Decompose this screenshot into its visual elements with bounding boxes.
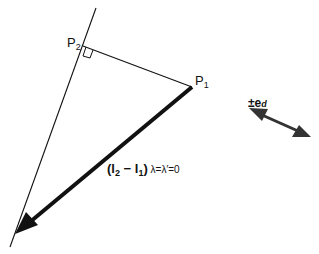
point-p1-label: P1 bbox=[195, 73, 209, 90]
vector-label: (l2 − l1) λ=λ′=0 bbox=[107, 161, 180, 178]
point-p2-label: P2 bbox=[67, 35, 81, 52]
direction-label-prefix: ±e bbox=[248, 96, 261, 110]
vector-label-open: (l bbox=[107, 161, 115, 176]
perpendicular-line bbox=[83, 46, 192, 87]
vector-label-condition: λ=λ′=0 bbox=[148, 164, 180, 175]
diagram-canvas bbox=[0, 0, 319, 254]
vector-arrow-shaft bbox=[30, 87, 192, 222]
p2-letter: P bbox=[67, 35, 76, 50]
p1-letter: P bbox=[195, 73, 204, 88]
double-arrow-shaft bbox=[262, 115, 298, 131]
p2-subscript: 2 bbox=[76, 42, 81, 52]
direction-label-subscript: d bbox=[261, 99, 267, 109]
reference-line bbox=[10, 8, 96, 247]
vector-label-minus: − l bbox=[120, 161, 138, 176]
direction-label: ±ed bbox=[248, 96, 267, 110]
p1-subscript: 1 bbox=[204, 80, 209, 90]
